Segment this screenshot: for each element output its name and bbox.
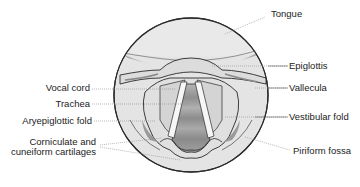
larynx-view-circle bbox=[110, 18, 272, 172]
label-vallecula: Vallecula bbox=[289, 82, 327, 93]
label-epiglottis: Epiglottis bbox=[289, 60, 328, 71]
larynx-diagram bbox=[0, 0, 360, 187]
label-trachea: Trachea bbox=[20, 98, 90, 109]
label-vocal-cord: Vocal cord bbox=[20, 82, 90, 93]
label-corniculate-cuneiform-cartilages: Corniculate and cuneiform cartilages bbox=[0, 137, 96, 157]
label-tongue: Tongue bbox=[271, 8, 302, 19]
label-vestibular-fold: Vestibular fold bbox=[289, 111, 349, 122]
label-piriform-fossa: Piriform fossa bbox=[293, 145, 351, 156]
label-aryepiglottic-fold: Aryepiglottic fold bbox=[0, 115, 92, 126]
